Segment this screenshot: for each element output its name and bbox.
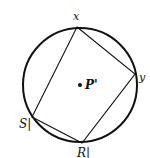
vertex-label-s: S| (19, 117, 31, 131)
vertex-label-r: R| (76, 146, 90, 158)
center-point (78, 83, 82, 87)
circle-diagram: x y R| S| P' (0, 0, 150, 158)
vertex-label-y: y (138, 71, 146, 84)
vertex-label-x: x (73, 10, 80, 23)
center-label-p: P' (84, 78, 98, 92)
